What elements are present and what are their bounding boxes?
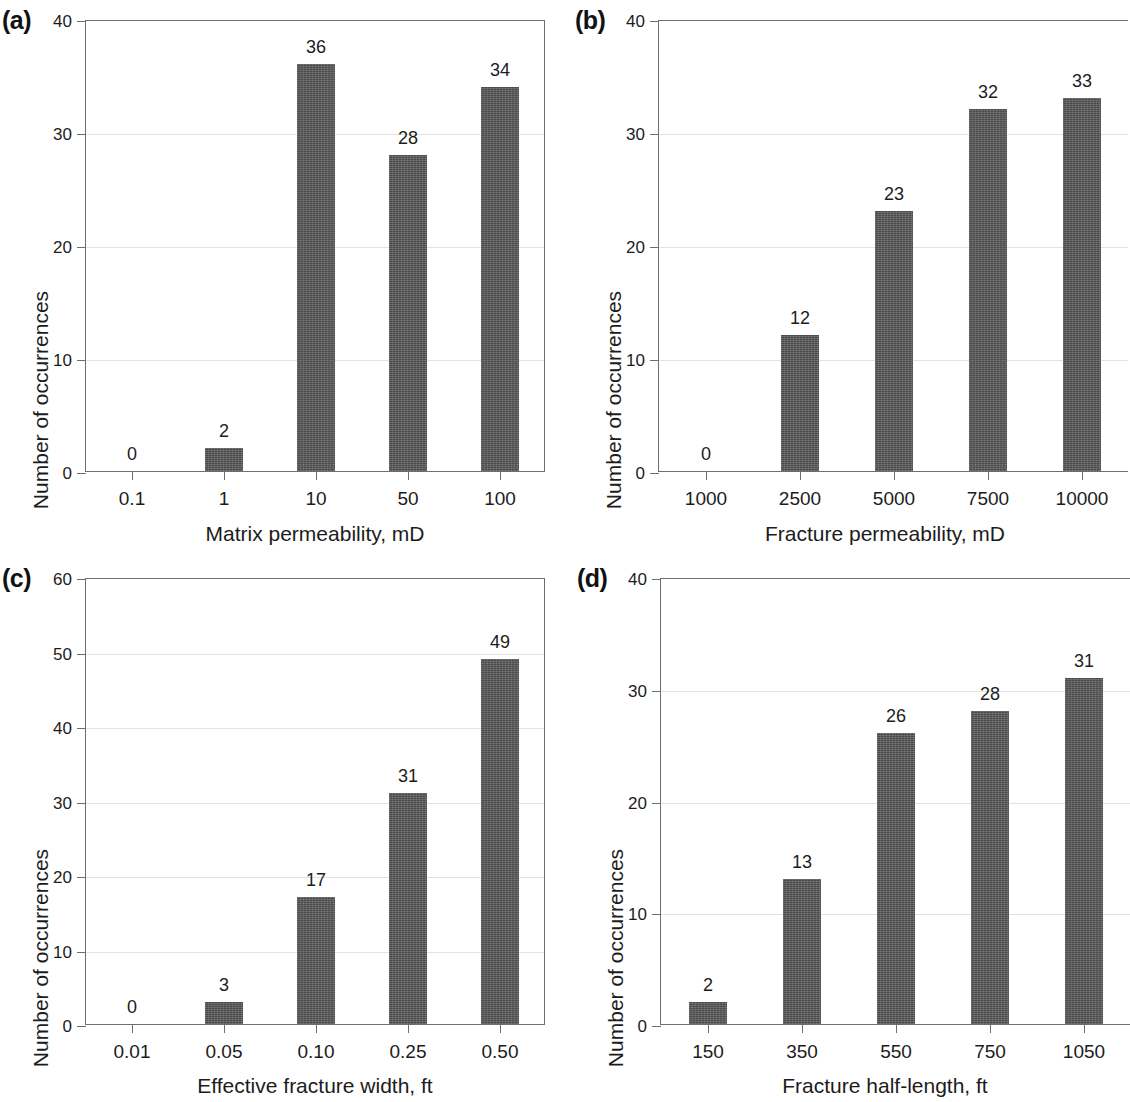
x-axis-tick-label: 750 xyxy=(974,1042,1006,1061)
y-axis-tick xyxy=(652,1026,661,1027)
x-axis-title: Fracture half-length, ft xyxy=(782,1075,987,1096)
y-axis-tick-label: 10 xyxy=(628,906,647,923)
y-axis-title: Number of occurrences xyxy=(605,849,626,1067)
y-axis-tick-label: 40 xyxy=(628,571,647,588)
y-axis-tick xyxy=(652,914,661,915)
x-axis-tick xyxy=(708,1024,709,1033)
bar-value-label: 2 xyxy=(703,976,713,994)
y-axis-tick-label: 0 xyxy=(638,1018,647,1035)
bar-value-label: 13 xyxy=(792,853,812,871)
bar xyxy=(971,711,1009,1024)
bar xyxy=(783,879,821,1024)
x-axis-tick-label: 150 xyxy=(692,1042,724,1061)
x-axis-tick xyxy=(896,1024,897,1033)
bar-value-label: 28 xyxy=(980,685,1000,703)
x-axis-tick-label: 1050 xyxy=(1063,1042,1105,1061)
y-axis-tick xyxy=(652,691,661,692)
x-axis-tick xyxy=(802,1024,803,1033)
bar-value-label: 26 xyxy=(886,707,906,725)
x-axis-tick-label: 350 xyxy=(786,1042,818,1061)
bar-value-label: 31 xyxy=(1074,652,1094,670)
plot-area-d: 0102030401502350135502675028105031 xyxy=(660,578,1130,1025)
y-axis-tick xyxy=(652,579,661,580)
y-axis-tick-label: 20 xyxy=(628,794,647,811)
y-axis-tick xyxy=(652,803,661,804)
y-axis-tick-label: 30 xyxy=(628,682,647,699)
bar xyxy=(877,733,915,1024)
x-axis-tick-label: 550 xyxy=(880,1042,912,1061)
x-axis-tick xyxy=(990,1024,991,1033)
panel-label-d: (d) xyxy=(577,566,607,591)
x-axis-tick xyxy=(1084,1024,1085,1033)
bar xyxy=(1065,678,1103,1024)
gridline xyxy=(661,691,1130,692)
bar xyxy=(689,1002,727,1024)
